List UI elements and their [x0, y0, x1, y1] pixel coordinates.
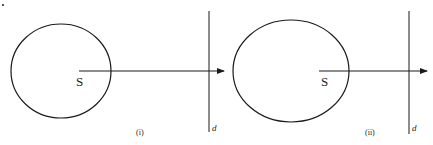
source-label: S — [321, 74, 328, 89]
source-label: S — [76, 74, 83, 89]
corner-mark — [2, 4, 4, 6]
panel-caption: (ii) — [365, 128, 375, 137]
panel-i: S d (i) — [11, 11, 224, 137]
line-d-label: d — [412, 123, 417, 133]
panel-caption: (i) — [136, 128, 144, 137]
panel-ii: S d (ii) — [233, 11, 427, 137]
line-d-label: d — [212, 123, 217, 133]
figure-canvas: S d (i) S d (ii) — [0, 0, 433, 145]
